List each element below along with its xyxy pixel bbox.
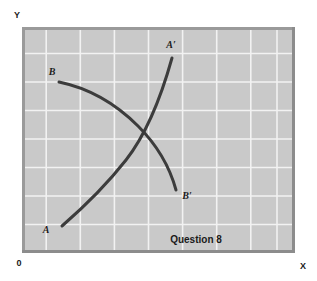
origin-label: 0 xyxy=(16,258,21,268)
y-axis-label: Y xyxy=(14,10,20,20)
curve-label-b: B xyxy=(48,66,56,77)
diagram-figure: A A′ B B′ Question 8 Y X 0 xyxy=(0,0,317,281)
curve-label-a-prime: A′ xyxy=(165,39,176,50)
curve-label-b-prime: B′ xyxy=(181,190,192,201)
x-axis-label: X xyxy=(300,261,306,271)
figure-caption: Question 8 xyxy=(170,234,222,245)
curve-label-a: A xyxy=(42,224,50,235)
plot-area-background xyxy=(22,27,295,253)
